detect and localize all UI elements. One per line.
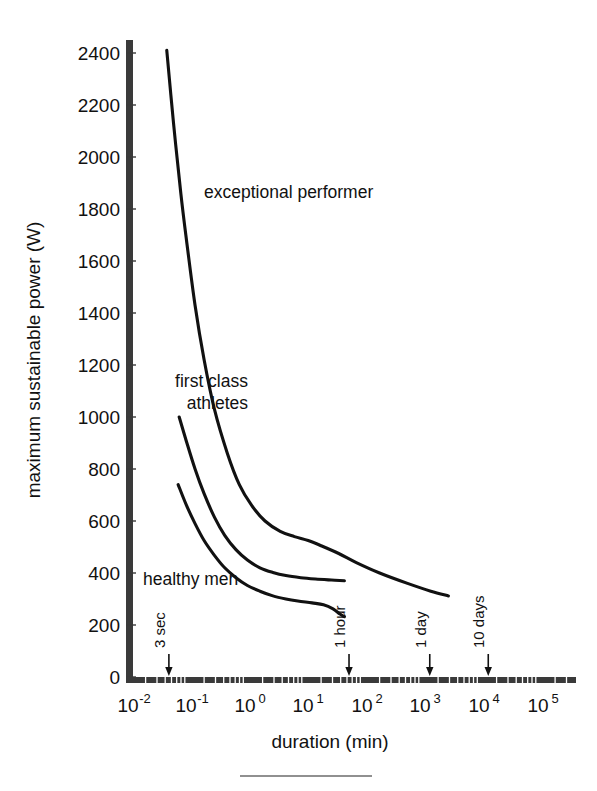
marker-label-10-days: 10 days [470, 595, 487, 648]
y-tick-label-1200: 1200 [78, 355, 120, 376]
marker-label-1-day: 1 day [412, 611, 429, 648]
x-tick-label-1e5: 10 5 [527, 691, 558, 716]
curve-label-exceptional-performer: exceptional performer [204, 182, 373, 202]
time-markers: 3 sec 1 hour 1 day 10 days [151, 595, 492, 676]
x-tick-label-1e0: 10 0 [234, 691, 265, 716]
arrow-down-icon [426, 667, 433, 676]
arrow-down-icon [485, 667, 492, 676]
marker-1-hour: 1 hour [331, 605, 353, 676]
y-tick-label-200: 200 [88, 615, 120, 636]
x-tick-label-1e1: 10 1 [292, 691, 323, 716]
x-tick-exponent: 1 [316, 691, 323, 706]
x-tick-exponent: 4 [492, 691, 499, 706]
x-axis-title: duration (min) [271, 731, 388, 752]
arrow-down-icon [345, 667, 352, 676]
y-tick-label-1800: 1800 [78, 199, 120, 220]
y-tick-label-2200: 2200 [78, 95, 120, 116]
x-tick-base: 10 [234, 695, 255, 716]
marker-3-sec: 3 sec [151, 612, 173, 676]
x-tick-label-1e4: 10 4 [468, 691, 499, 716]
x-tick-label-1e2: 10 2 [351, 691, 382, 716]
x-tick-exponent: 3 [433, 691, 440, 706]
x-tick-base: 10 [468, 695, 489, 716]
data-curves [167, 50, 449, 616]
x-tick-label-1e-1: 10 -1 [175, 691, 208, 716]
curve-healthy-men [178, 485, 344, 617]
x-tick-exponent: -2 [139, 691, 151, 706]
y-tick-label-400: 400 [88, 563, 120, 584]
x-tick-label-1e-2: 10 -2 [117, 691, 150, 716]
x-tick-base: 10 [351, 695, 372, 716]
y-tick-label-1000: 1000 [78, 407, 120, 428]
power-duration-chart: 0 200 400 600 800 1000 1200 1400 1600 18… [0, 0, 597, 791]
y-axis: 0 200 400 600 800 1000 1200 1400 1600 18… [23, 40, 136, 688]
marker-10-days: 10 days [470, 595, 492, 676]
x-tick-base: 10 [409, 695, 430, 716]
y-axis-bar [126, 40, 133, 680]
marker-label-3-sec: 3 sec [151, 612, 168, 648]
x-tick-exponent: -1 [197, 691, 209, 706]
y-tick-label-0: 0 [109, 667, 120, 688]
curve-label-first-class-line2: athletes [187, 393, 249, 413]
x-tick-base: 10 [527, 695, 548, 716]
x-tick-base: 10 [175, 695, 196, 716]
x-tick-label-1e3: 10 3 [409, 691, 440, 716]
marker-label-1-hour: 1 hour [331, 605, 348, 648]
y-tick-label-2400: 2400 [78, 43, 120, 64]
curve-first-class-athletes [179, 417, 344, 581]
y-axis-title: maximum sustainable power (W) [23, 222, 44, 499]
y-tick-label-600: 600 [88, 511, 120, 532]
x-tick-exponent: 5 [551, 691, 558, 706]
arrow-down-icon [165, 667, 172, 676]
chart-figure: 0 200 400 600 800 1000 1200 1400 1600 18… [0, 0, 597, 791]
curve-label-healthy-men: healthy men [143, 569, 238, 589]
curve-label-first-class-line1: first class [175, 371, 248, 391]
x-axis: 10 -2 10 -1 10 0 10 1 10 2 10 3 [117, 677, 576, 752]
y-tick-label-1400: 1400 [78, 303, 120, 324]
curve-exceptional-performer [167, 50, 449, 595]
x-tick-exponent: 0 [258, 691, 265, 706]
x-tick-exponent: 2 [375, 691, 382, 706]
y-tick-label-2000: 2000 [78, 147, 120, 168]
x-tick-base: 10 [117, 695, 138, 716]
y-tick-label-1600: 1600 [78, 251, 120, 272]
curve-labels: exceptional performer first class athlet… [143, 182, 373, 589]
x-tick-base: 10 [292, 695, 313, 716]
y-tick-label-800: 800 [88, 459, 120, 480]
marker-1-day: 1 day [412, 611, 434, 676]
